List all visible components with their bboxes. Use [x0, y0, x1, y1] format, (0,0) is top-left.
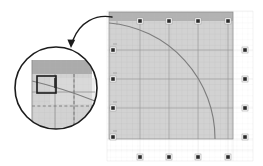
- detail-callout: [15, 47, 97, 130]
- magnified-header-texture: [32, 60, 92, 74]
- engineering-diagram: [0, 0, 263, 166]
- figure-root: [0, 0, 263, 166]
- plot-panel[interactable]: [109, 12, 233, 139]
- plot-minor-grid: [109, 12, 233, 139]
- magnified-handle-nub: [54, 78, 56, 88]
